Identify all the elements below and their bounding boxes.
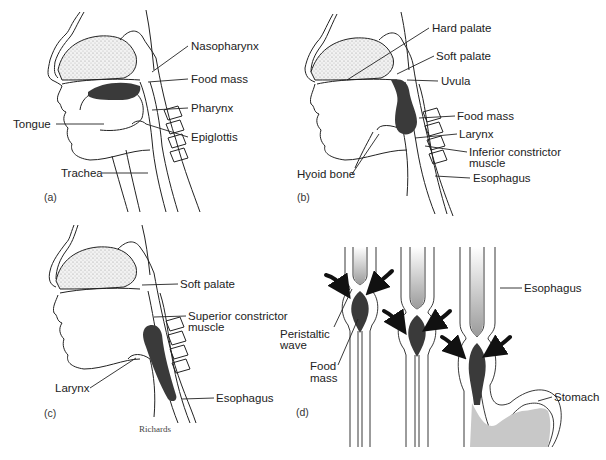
- illustrator-credit: Richards: [139, 424, 171, 434]
- label-hyoid-bone: Hyoid bone: [297, 168, 355, 180]
- panel-tag-c: (c): [44, 407, 56, 419]
- food-mass-d3: [469, 343, 486, 405]
- label-soft-palate: Soft palate: [436, 50, 491, 62]
- label-food: Food: [310, 360, 336, 372]
- label-food-mass: Food mass: [457, 110, 514, 122]
- food-mass-a: [88, 83, 140, 100]
- label-food-mass: mass: [310, 372, 337, 384]
- panel-c: Soft palate Superior constrictor muscle …: [0, 225, 300, 460]
- panel-tag-d: (d): [296, 406, 309, 418]
- panel-tag-b: (b): [297, 191, 310, 203]
- label-superior-constrictor-muscle: muscle: [188, 321, 224, 333]
- label-stomach: Stomach: [554, 391, 599, 403]
- label-soft-palate: Soft palate: [180, 278, 235, 290]
- panel-d: Esophagus Peristaltic wave Food mass Sto…: [290, 225, 606, 460]
- label-tongue: Tongue: [13, 118, 51, 130]
- label-hard-palate: Hard palate: [432, 22, 491, 34]
- food-mass-d1: [351, 291, 368, 333]
- stomach-contents: [470, 403, 550, 447]
- label-larynx: Larynx: [459, 128, 494, 140]
- food-mass-d2: [408, 315, 425, 357]
- label-larynx: Larynx: [55, 382, 90, 394]
- label-pharynx: Pharynx: [191, 102, 233, 114]
- label-esophagus: Esophagus: [524, 282, 582, 294]
- food-mass-c: [143, 325, 176, 401]
- label-food-mass: Food mass: [191, 73, 248, 85]
- food-mass-b: [391, 79, 417, 134]
- label-peristaltic-wave: wave: [280, 339, 307, 351]
- panel-tag-a: (a): [44, 191, 57, 203]
- label-inferior-constrictor-muscle: muscle: [469, 157, 505, 169]
- label-trachea: Trachea: [61, 167, 103, 179]
- label-nasopharynx: Nasopharynx: [191, 40, 259, 52]
- label-epiglottis: Epiglottis: [191, 131, 238, 143]
- label-esophagus: Esophagus: [473, 172, 531, 184]
- label-esophagus: Esophagus: [216, 392, 274, 404]
- panel-b: Hard palate Soft palate Uvula Food mass …: [295, 0, 606, 225]
- peristalsis-diagram: [290, 225, 606, 460]
- label-uvula: Uvula: [441, 75, 470, 87]
- panel-a: Nasopharynx Food mass Pharynx Tongue Epi…: [0, 0, 300, 225]
